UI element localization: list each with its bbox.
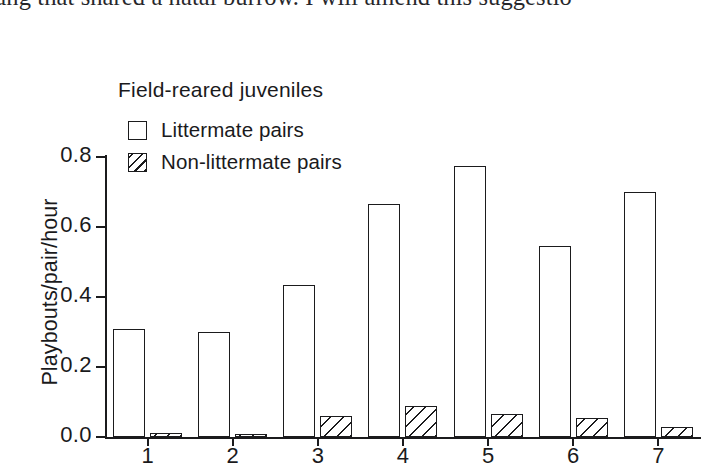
hatched-square-icon <box>128 153 147 172</box>
bar-non-littermate-3 <box>320 416 352 437</box>
y-axis-tick-label: 0.2 <box>36 352 92 378</box>
y-axis-tick-label: 0.0 <box>36 422 92 448</box>
bar-non-littermate-5 <box>491 414 523 437</box>
y-axis-tick <box>96 436 106 438</box>
bar-littermate-1 <box>113 329 145 438</box>
x-axis-tick-label: 2 <box>213 443 253 469</box>
x-axis-tick-label: 1 <box>128 443 168 469</box>
bar-littermate-2 <box>198 332 230 437</box>
bar-littermate-7 <box>624 192 656 437</box>
bar-littermate-6 <box>539 246 571 437</box>
x-axis-tick-label: 6 <box>553 443 593 469</box>
x-axis-tick-label: 5 <box>468 443 508 469</box>
legend-label-littermate-pairs: Littermate pairs <box>161 118 304 142</box>
bar-littermate-4 <box>368 204 400 437</box>
bar-non-littermate-1 <box>150 433 182 437</box>
y-axis-tick-label: 0.8 <box>36 142 92 168</box>
bar-non-littermate-6 <box>576 418 608 437</box>
bar-non-littermate-4 <box>405 406 437 438</box>
legend-label-non-littermate-pairs: Non-littermate pairs <box>161 150 342 174</box>
legend-entry-littermate-pairs: Littermate pairs <box>128 118 304 142</box>
bar-non-littermate-7 <box>661 427 693 438</box>
y-axis-tick-label: 0.6 <box>36 212 92 238</box>
y-axis-tick <box>96 366 106 368</box>
bar-littermate-5 <box>454 166 486 437</box>
legend-entry-non-littermate-pairs: Non-littermate pairs <box>128 150 342 174</box>
x-axis-tick-label: 4 <box>383 443 423 469</box>
bar-non-littermate-2 <box>235 434 267 438</box>
x-axis-tick-label: 7 <box>638 443 678 469</box>
x-axis-tick-label: 3 <box>298 443 338 469</box>
y-axis-tick <box>96 226 106 228</box>
y-axis-tick-label: 0.4 <box>36 282 92 308</box>
chart-title: Field-reared juveniles <box>118 78 323 102</box>
bar-littermate-3 <box>283 285 315 437</box>
open-square-icon <box>128 121 147 140</box>
bar-chart-figure: Field-reared juveniles Playbouts/pair/ho… <box>0 0 701 472</box>
y-axis-tick <box>96 156 106 158</box>
y-axis-tick <box>96 296 106 298</box>
